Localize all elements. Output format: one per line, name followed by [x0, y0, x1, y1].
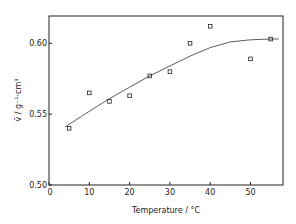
data-point	[128, 94, 132, 98]
y-axis-label: v̄ / g⁻¹·cm³	[14, 79, 23, 122]
data-point	[249, 57, 253, 61]
y-tick-label: 0.50	[29, 181, 47, 190]
x-tick-label: 50	[245, 188, 255, 197]
data-point	[188, 42, 192, 46]
x-tick-label: 0	[47, 188, 52, 197]
x-axis-label: Temperature / °C	[131, 206, 200, 215]
y-tick-label: 0.55	[29, 110, 47, 119]
plot-frame	[49, 16, 283, 185]
x-tick-label: 20	[125, 188, 135, 197]
data-point	[108, 100, 112, 104]
fit-curve	[65, 39, 279, 127]
data-point	[88, 91, 92, 95]
y-tick-label: 0.60	[29, 39, 47, 48]
x-tick-label: 10	[84, 188, 94, 197]
x-tick-label: 40	[205, 188, 215, 197]
data-point	[208, 24, 212, 28]
data-point	[67, 127, 71, 131]
x-tick-label: 30	[165, 188, 175, 197]
scatter-chart: 0.500.550.60 01020304050 Temperature / °…	[0, 0, 296, 224]
data-point	[168, 70, 172, 74]
